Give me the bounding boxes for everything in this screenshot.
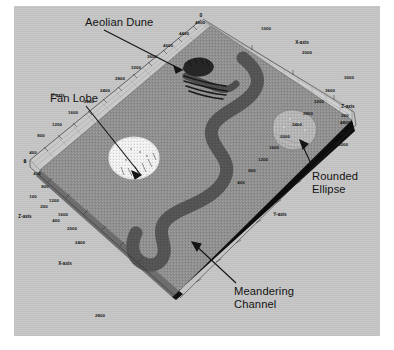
axis-tick-y-right-8: 400 <box>237 180 244 185</box>
axis-name-y-left: Y-axis <box>51 93 64 98</box>
axis-tick-y-right-3: 2400 <box>292 122 302 127</box>
axis-tick-x-left-3: 1600 <box>58 212 68 217</box>
axis-tick-y-left-12: 0 <box>24 159 26 164</box>
axis-name-x-left: X-axis <box>58 261 72 266</box>
callout-aeolian-dune: Aeolian Dune <box>85 16 153 29</box>
axis-tick-x-left-2: 1200 <box>49 198 59 203</box>
axis-tick-z-right-1: 4800 <box>340 120 350 125</box>
callout-meandering-channel: Meandering Channel <box>234 285 294 310</box>
axis-tick-x-top-1: 2000 <box>302 50 312 55</box>
axis-tick-z-right-3: 4000 <box>338 142 348 147</box>
axis-tick-x-top-0: 1000 <box>261 26 271 31</box>
axis-name-y-right: Y-axis <box>273 212 286 217</box>
axis-tick-z-right-2: 4400 <box>339 131 349 136</box>
axis-origin-top: 0 <box>200 12 203 18</box>
axis-tick-y-left-8: 1600 <box>68 110 78 115</box>
axis-tick-y-left-11: 400 <box>29 150 36 155</box>
axis-tick-y-left-7: 2000 <box>84 99 94 104</box>
axis-tick-z-left-1: 200 <box>40 204 47 209</box>
figure-root: Aeolian Dune Fan Lobe Rounded Ellipse Me… <box>0 0 394 350</box>
axis-tick-y-left-0: 4800 <box>195 20 205 25</box>
axis-name-x-top: X-axis <box>295 40 309 45</box>
axis-tick-y-left-3: 3600 <box>147 54 157 59</box>
axis-tick-x-top-2: 3000 <box>344 75 354 80</box>
axis-tick-y-right-2: 2800 <box>303 111 313 116</box>
axis-tick-x-left-6: 2800 <box>95 313 105 318</box>
axis-tick-y-right-5: 1600 <box>269 145 279 150</box>
axis-tick-y-left-6: 2400 <box>100 88 110 93</box>
axis-tick-y-right-1: 3200 <box>314 99 324 104</box>
axis-tick-y-left-1: 4400 <box>179 31 189 36</box>
axis-tick-y-left-10: 800 <box>37 133 44 138</box>
axis-tick-y-left-9: 1200 <box>52 122 62 127</box>
axis-tick-y-left-4: 3200 <box>131 65 141 70</box>
axis-tick-x-left-0: 400 <box>33 171 40 176</box>
axis-tick-y-left-2: 4000 <box>163 43 173 48</box>
axis-tick-y-right-7: 800 <box>248 168 255 173</box>
axis-tick-y-right-0: 3600 <box>325 88 335 93</box>
axis-tick-y-left-5: 2800 <box>115 76 125 81</box>
axis-tick-x-left-1: 800 <box>41 184 48 189</box>
axis-name-z-left: Z-axis <box>18 214 31 219</box>
axis-tick-x-left-4: 2000 <box>67 226 77 231</box>
axis-tick-y-right-4: 2000 <box>280 134 290 139</box>
axis-tick-y-right-6: 1200 <box>258 157 268 162</box>
axis-tick-z-right-0: 200 <box>341 113 348 118</box>
axis-tick-z-left-0: 100 <box>29 194 36 199</box>
callout-rounded-ellipse: Rounded Ellipse <box>312 170 358 195</box>
axis-tick-z-left-2: 400 <box>52 218 59 223</box>
axis-name-z-right: Z-axis <box>341 104 354 109</box>
axis-tick-x-left-5: 2400 <box>75 240 85 245</box>
